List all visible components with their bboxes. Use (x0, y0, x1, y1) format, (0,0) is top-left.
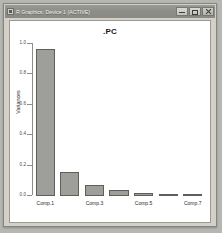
y-axis-tick: 0.0 (27, 195, 32, 196)
bar (60, 172, 79, 196)
y-axis-tick-label: 1.0 (20, 40, 26, 45)
window-controls (176, 7, 214, 16)
plot-title: .PC (10, 27, 210, 36)
x-axis-tick-label: Comp.5 (135, 200, 153, 206)
x-axis-tick-label: Comp.7 (184, 200, 202, 206)
bar (36, 49, 55, 196)
bar (109, 190, 128, 196)
minimize-button[interactable] (176, 7, 188, 16)
bar-series (33, 43, 205, 196)
plot-canvas: .PC Variances 0.00.20.40.60.81.0 Comp.1C… (9, 20, 211, 223)
maximize-button[interactable] (189, 7, 201, 16)
y-axis-tick: 1.0 (27, 43, 32, 44)
scree-plot: .PC Variances 0.00.20.40.60.81.0 Comp.1C… (10, 21, 210, 222)
window-title: R Graphics: Device 1 (ACTIVE) (16, 9, 176, 15)
x-axis-tick-label: Comp.1 (37, 200, 55, 206)
y-axis-tick-label: 0.8 (20, 70, 26, 75)
bar (134, 193, 153, 196)
r-graphics-window: R Graphics: Device 1 (ACTIVE) .PC Varian… (3, 3, 217, 227)
bar (85, 185, 104, 196)
x-axis-tick-label: Comp.3 (86, 200, 104, 206)
y-axis-tick-label: 0.2 (20, 162, 26, 167)
y-axis-tick-label: 0.6 (20, 101, 26, 106)
x-axis-ticks: Comp.1Comp.3Comp.5Comp.7 (33, 200, 205, 212)
r-graphics-icon (7, 8, 14, 15)
y-axis-tick: 0.2 (27, 165, 32, 166)
window-titlebar[interactable]: R Graphics: Device 1 (ACTIVE) (5, 5, 215, 18)
bar (159, 194, 178, 196)
y-axis-tick: 0.8 (27, 73, 32, 74)
y-axis-tick-label: 0.4 (20, 131, 26, 136)
y-axis-tick-label: 0.0 (20, 192, 26, 197)
y-axis-tick: 0.6 (27, 104, 32, 105)
bar (183, 194, 202, 196)
close-button[interactable] (202, 7, 214, 16)
y-axis-tick: 0.4 (27, 134, 32, 135)
